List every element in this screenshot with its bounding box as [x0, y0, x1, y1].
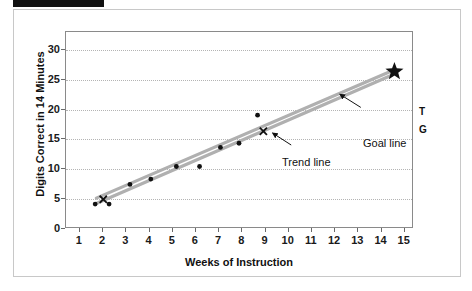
- x-axis-tick-mark: [79, 228, 80, 232]
- redaction-bar: [13, 0, 104, 7]
- data-point: [148, 177, 153, 182]
- chart-series-layer: [65, 31, 413, 228]
- x-axis-tick-label: 11: [301, 234, 321, 246]
- x-axis-tick-mark: [311, 228, 312, 232]
- y-axis-tick-mark: [61, 228, 65, 229]
- x-axis-tick-label: 7: [208, 234, 228, 246]
- x-axis-tick-label: 13: [347, 234, 367, 246]
- y-axis-title: Digits Correct in 14 Minutes: [34, 34, 46, 214]
- data-point: [93, 202, 98, 207]
- x-axis-tick-mark: [195, 228, 196, 232]
- x-axis-tick-label: 15: [394, 234, 414, 246]
- data-point: [255, 113, 260, 118]
- x-axis-tick-label: 6: [185, 234, 205, 246]
- y-axis-title-wrapper: Digits Correct in 14 Minutes: [22, 30, 38, 230]
- x-axis-title: Weeks of Instruction: [65, 256, 413, 268]
- x-axis-tick-label: 3: [115, 234, 135, 246]
- goal-line-leader: [340, 94, 361, 107]
- y-axis-tick-label: 0: [38, 223, 60, 234]
- x-axis-tick-label: 4: [139, 234, 159, 246]
- x-axis-tick-mark: [172, 228, 173, 232]
- x-axis-tick-label: 9: [255, 234, 275, 246]
- x-axis-tick-label: 12: [324, 234, 344, 246]
- x-axis-tick-mark: [125, 228, 126, 232]
- x-axis-tick-mark: [265, 228, 266, 232]
- trend-line: [96, 74, 394, 204]
- x-axis-tick-mark: [334, 228, 335, 232]
- y-axis-tick-label: 20: [38, 104, 60, 115]
- trend-line-annotation: Trend line: [282, 156, 331, 168]
- figure-container: Digits Correct in 14 Minutes 05101520253…: [0, 0, 472, 291]
- x-axis-tick-label: 1: [69, 234, 89, 246]
- x-axis-tick-mark: [102, 228, 103, 232]
- x-axis-tick-mark: [241, 228, 242, 232]
- x-axis-tick-mark: [404, 228, 405, 232]
- data-point: [128, 182, 133, 187]
- goal-line-endpoint-label: G: [419, 125, 427, 135]
- x-axis-tick-mark: [381, 228, 382, 232]
- data-point: [107, 202, 112, 207]
- y-axis-tick-label: 25: [38, 74, 60, 85]
- y-axis-tick-label: 10: [38, 163, 60, 174]
- trend-line-leader: [273, 133, 292, 145]
- x-axis-tick-mark: [357, 228, 358, 232]
- x-axis-tick-label: 2: [92, 234, 112, 246]
- x-axis-tick-label: 10: [278, 234, 298, 246]
- x-axis-tick-mark: [218, 228, 219, 232]
- x-axis-tick-label: 5: [162, 234, 182, 246]
- x-axis-tick-mark: [149, 228, 150, 232]
- data-point: [237, 141, 242, 146]
- y-axis-tick-label: 30: [38, 44, 60, 55]
- y-axis-tick-label: 5: [38, 193, 60, 204]
- data-point: [174, 164, 179, 169]
- data-point: [197, 164, 202, 169]
- data-point: [218, 145, 223, 150]
- x-axis-tick-label: 14: [371, 234, 391, 246]
- y-axis-tick-label: 15: [38, 133, 60, 144]
- goal-line-annotation: Goal line: [363, 137, 406, 149]
- x-axis-tick-mark: [288, 228, 289, 232]
- goal-line: [96, 70, 394, 198]
- trend-line-endpoint-label: T: [419, 107, 425, 117]
- x-axis-tick-label: 8: [231, 234, 251, 246]
